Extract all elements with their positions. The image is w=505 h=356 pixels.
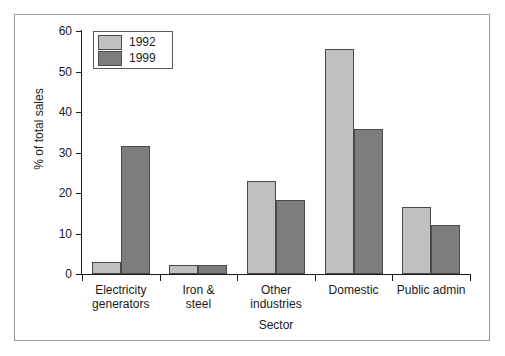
x-category-label-line: Domestic [315, 283, 393, 297]
y-tick-label-text: 60 [36, 25, 72, 37]
bar-1999-2 [276, 200, 305, 274]
x-category-label-line: generators [82, 297, 160, 311]
x-category-label-line: Electricity [82, 283, 160, 297]
legend-label-1999: 1999 [129, 52, 156, 65]
bar-1999-0 [121, 146, 150, 274]
y-tick-label: 60 [32, 25, 72, 37]
x-category-label: Iron &steel [160, 283, 238, 311]
legend-swatch-1999 [98, 51, 122, 66]
x-category-label: Domestic [315, 283, 393, 297]
x-category-label: Otherindustries [237, 283, 315, 311]
y-tick-label: 0 [32, 268, 72, 280]
bar-1999-1 [198, 265, 227, 274]
x-category-label-line: Iron & [160, 283, 238, 297]
bar-1992-1 [169, 265, 198, 274]
x-tick-mark [470, 275, 471, 281]
x-category-label: Public admin [392, 283, 470, 297]
legend-swatch-1992 [98, 35, 122, 50]
bar-1999-3 [354, 129, 383, 274]
x-tick-mark [392, 275, 393, 281]
x-category-label-line: Public admin [392, 283, 470, 297]
bar-1992-4 [402, 207, 431, 274]
x-category-label: Electricitygenerators [82, 283, 160, 311]
x-tick-mark [315, 275, 316, 281]
x-axis-title: Sector [82, 318, 470, 332]
y-tick-label-text: 0 [36, 268, 72, 280]
legend: 1992 1999 [93, 31, 173, 69]
bar-1992-0 [92, 262, 121, 274]
x-tick-mark [82, 275, 83, 281]
legend-label-1992: 1992 [129, 36, 156, 49]
bar-1992-2 [247, 181, 276, 274]
x-tick-mark [160, 275, 161, 281]
y-axis-title: % of total sales [32, 59, 46, 199]
x-category-label-line: Other [237, 283, 315, 297]
y-tick-label-text: 10 [36, 228, 72, 240]
x-category-label-line: steel [160, 297, 238, 311]
bar-chart-figure: 0102030405060 % of total sales Electrici… [0, 0, 505, 356]
x-category-label-line: industries [237, 297, 315, 311]
y-tick-label: 10 [32, 228, 72, 240]
x-axis-line [81, 274, 471, 275]
bar-1999-4 [431, 225, 460, 274]
x-tick-mark [237, 275, 238, 281]
bar-1992-3 [325, 49, 354, 274]
